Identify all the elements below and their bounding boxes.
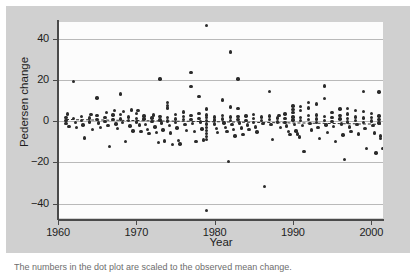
scatter-point: [183, 123, 186, 126]
scatter-point: [236, 77, 239, 80]
scatter-point: [130, 108, 133, 111]
scatter-point: [301, 124, 304, 127]
scatter-point: [230, 123, 233, 126]
scatter-point: [197, 95, 200, 98]
scatter-point: [200, 127, 203, 130]
scatter-point: [291, 111, 294, 114]
scatter-point: [205, 24, 208, 27]
scatter-point: [171, 143, 174, 146]
scatter-point: [285, 124, 288, 127]
scatter-point: [105, 111, 108, 114]
x-axis-tick-label: 1990: [263, 226, 323, 238]
x-axis-tick: [293, 220, 294, 225]
scatter-point: [302, 150, 305, 153]
scatter-point: [338, 117, 341, 120]
scatter-point: [307, 101, 310, 104]
scatter-point: [330, 111, 333, 114]
y-axis-tick: [53, 204, 58, 205]
scatter-point: [89, 113, 92, 116]
y-axis-tick: [53, 39, 58, 40]
scatter-point: [168, 124, 171, 127]
scatter-point: [318, 137, 321, 140]
scatter-point: [277, 114, 280, 117]
scatter-point: [326, 131, 329, 134]
scatter-point: [365, 147, 368, 150]
scatter-point: [310, 128, 313, 131]
y-axis-label: Pedersen change: [18, 42, 30, 162]
scatter-point: [216, 131, 219, 134]
scatter-point: [97, 121, 100, 124]
y-axis-tick-label: 0: [0, 114, 49, 126]
scatter-point: [279, 126, 282, 129]
scatter-point: [370, 119, 373, 122]
scatter-point: [161, 128, 164, 131]
scatter-point: [323, 97, 326, 100]
scatter-point: [246, 123, 249, 126]
scatter-point: [74, 121, 77, 124]
scatter-point: [362, 90, 365, 93]
scatter-point: [189, 85, 192, 88]
scatter-point: [354, 109, 357, 112]
figure-caption: The numbers in the dot plot are scaled t…: [14, 262, 408, 273]
scatter-point: [332, 125, 335, 128]
y-axis-tick-label: −20: [0, 155, 49, 167]
scatter-point: [221, 98, 224, 101]
scatter-point: [370, 112, 373, 115]
scatter-point: [240, 126, 243, 129]
scatter-point: [363, 127, 366, 130]
scatter-point: [189, 114, 192, 117]
scatter-point: [197, 112, 200, 115]
scatter-point: [307, 106, 310, 109]
scatter-point: [255, 130, 258, 133]
scatter-point: [66, 112, 69, 115]
scatter-point: [155, 131, 158, 134]
scatter-point: [334, 140, 337, 143]
scatter-point: [323, 84, 326, 87]
scatter-point: [283, 117, 286, 120]
x-axis-tick: [136, 220, 137, 225]
scatter-point: [95, 96, 98, 99]
scatter-point: [122, 110, 125, 113]
scatter-point: [99, 126, 102, 129]
scatter-point: [80, 115, 83, 118]
scatter-point: [147, 132, 150, 135]
scatter-point: [193, 130, 196, 133]
scatter-point: [169, 131, 172, 134]
x-axis-tick-label: 2000: [341, 226, 401, 238]
y-axis-tick-label: −40: [0, 197, 49, 209]
scatter-point: [157, 141, 160, 144]
gridline: [58, 204, 383, 205]
x-axis-tick-label: 1980: [185, 226, 245, 238]
scatter-point: [323, 119, 326, 122]
scatter-point: [374, 151, 377, 154]
scatter-point: [194, 140, 197, 143]
scatter-point: [205, 209, 208, 212]
scatter-point: [136, 109, 139, 112]
scatter-point: [357, 132, 360, 135]
scatter-point: [299, 109, 302, 112]
x-axis-tick: [58, 220, 59, 225]
scatter-point: [271, 138, 274, 141]
x-axis-tick: [371, 220, 372, 225]
scatter-point: [75, 126, 78, 129]
plot-area: [58, 22, 383, 218]
scatter-point: [111, 113, 114, 116]
scatter-point: [138, 123, 141, 126]
scatter-point: [119, 92, 122, 95]
scatter-point: [153, 125, 156, 128]
scatter-point: [113, 109, 116, 112]
y-axis-tick: [53, 162, 58, 163]
gridline: [58, 162, 383, 163]
y-axis-tick-label: 40: [0, 32, 49, 44]
scatter-point: [299, 105, 302, 108]
scatter-point: [330, 116, 333, 119]
scatter-point: [346, 112, 349, 115]
scatter-point: [338, 107, 341, 110]
scatter-point: [95, 114, 98, 117]
scatter-point: [174, 113, 177, 116]
scatter-point: [241, 133, 244, 136]
scatter-point: [91, 128, 94, 131]
scatter-point: [362, 116, 365, 119]
scatter-point: [349, 130, 352, 133]
scatter-point: [124, 140, 127, 143]
